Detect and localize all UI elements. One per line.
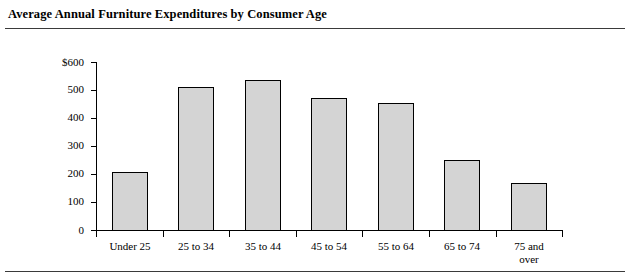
x-axis-label-25-to-34: 25 to 34	[162, 240, 230, 253]
y-tick-label-400: 400	[38, 112, 84, 123]
bar-55-to-64	[378, 103, 414, 231]
x-axis-label-75-line1: 75 and	[514, 240, 544, 252]
x-axis-label-35-to-44: 35 to 44	[229, 240, 297, 253]
y-tick-label-300: 300	[38, 140, 84, 151]
y-tick-label-100: 100	[38, 196, 84, 207]
x-axis-label-45-to-54: 45 to 54	[295, 240, 363, 253]
bar-35-to-44	[245, 80, 281, 231]
chart-page: Average Annual Furniture Expenditures by…	[0, 0, 630, 280]
x-axis-label-75-and-over: 75 andover	[495, 240, 563, 265]
bar-25-to-34	[178, 87, 214, 231]
y-tick-label-500: 500	[38, 84, 84, 95]
bar-75-and-over	[511, 183, 547, 231]
x-axis-tick-1	[163, 231, 164, 237]
y-tick-label-0: 0	[38, 225, 84, 236]
y-axis-labels: $600 500 400 300 200 100 0	[38, 0, 84, 280]
y-tick-label-600: $600	[38, 57, 84, 68]
y-tick-label-200: 200	[38, 168, 84, 179]
x-axis-tick-0	[96, 231, 97, 237]
y-axis-line	[96, 62, 97, 231]
x-axis-label-under-25: Under 25	[96, 240, 164, 253]
x-axis-tick-6	[496, 231, 497, 237]
x-axis-tick-5	[429, 231, 430, 237]
x-axis-tick-2	[229, 231, 230, 237]
bar-under-25	[112, 172, 148, 231]
bar-45-to-54	[311, 98, 347, 231]
title-divider	[5, 28, 625, 29]
bottom-divider	[5, 271, 625, 272]
x-axis-label-75-line2: over	[519, 253, 539, 265]
x-axis-tick-7	[562, 231, 563, 237]
x-axis-label-65-to-74: 65 to 74	[428, 240, 496, 253]
bar-65-to-74	[444, 160, 480, 231]
x-axis-label-55-to-64: 55 to 64	[362, 240, 430, 253]
x-axis-tick-4	[362, 231, 363, 237]
title-bar: Average Annual Furniture Expenditures by…	[0, 0, 630, 30]
x-axis-tick-3	[296, 231, 297, 237]
